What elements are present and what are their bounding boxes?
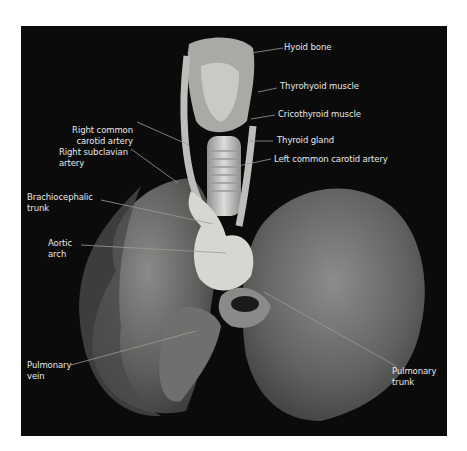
label-right-common-carotid-artery: Right common carotid artery xyxy=(61,125,133,147)
label-right-subclavian-artery: Right subclavian artery xyxy=(59,147,128,169)
anatomy-photo: Hyoid bone Thyrohyoid muscle Cricothyroi… xyxy=(21,26,447,436)
label-cricothyroid-muscle: Cricothyroid muscle xyxy=(278,109,361,120)
heart-lung-specimen-illustration xyxy=(21,26,447,436)
label-brachiocephalic-trunk: Brachiocephalic trunk xyxy=(27,192,93,214)
label-hyoid-bone: Hyoid bone xyxy=(284,42,331,53)
label-pulmonary-trunk: Pulmonary trunk xyxy=(392,366,436,388)
label-thyroid-gland: Thyroid gland xyxy=(277,135,334,146)
label-thyrohyoid-muscle: Thyrohyoid muscle xyxy=(280,81,359,92)
label-pulmonary-vein: Pulmonary vein xyxy=(27,360,71,382)
label-left-common-carotid-artery: Left common carotid artery xyxy=(274,154,388,165)
label-aortic-arch: Aortic arch xyxy=(48,238,72,260)
